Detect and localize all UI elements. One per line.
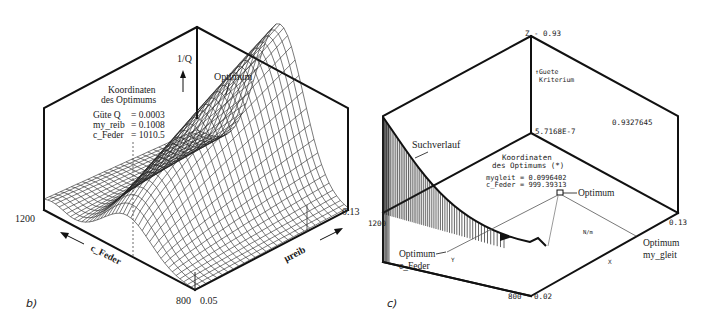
z-axis-label: 1/Q bbox=[177, 53, 193, 64]
unit-label: N/m bbox=[583, 229, 594, 235]
search-path-label-pointer bbox=[415, 152, 428, 158]
info-row-myreib-value: = 0.1008 bbox=[131, 120, 165, 130]
x-axis-letter: X bbox=[608, 258, 612, 265]
panel-b-surface-plot: 1/Q Optimum Koordinaten des Optimums Güt… bbox=[0, 0, 365, 333]
optimum-label: Optimum bbox=[214, 71, 253, 82]
info-title-line2: des Optimums bbox=[101, 95, 156, 105]
x-axis-arrow-icon bbox=[60, 232, 84, 244]
y-tick-013: 0.13 bbox=[669, 218, 687, 227]
z-axis-label-line1: ↑Guete bbox=[535, 68, 559, 76]
x-axis-label: c_Feder bbox=[89, 243, 123, 267]
panel-label-c: c) bbox=[387, 297, 397, 310]
info-row-guete-name: Güte Q bbox=[93, 110, 121, 120]
y-axis-label: μreib bbox=[282, 243, 308, 263]
search-path-label: Suchverlauf bbox=[412, 139, 461, 150]
optimum-c-feder-label-line1: Optimum bbox=[399, 249, 436, 259]
z-axis-label-line2: Kriterium bbox=[539, 76, 574, 84]
panel-label-b: b) bbox=[26, 297, 37, 310]
y-tick-013: 0.13 bbox=[342, 206, 360, 217]
info-row-cfeder-name: c_Feder bbox=[486, 181, 516, 189]
info-title-line1: Koordinaten bbox=[108, 85, 156, 95]
y-tick-002: 0.02 bbox=[534, 292, 552, 301]
x-tick-1200: 1200 bbox=[368, 219, 387, 228]
y-tick-005: 0.05 bbox=[200, 295, 218, 306]
optimum-marker-label: Optimum bbox=[578, 188, 615, 198]
optimum-my-gleit-label-line1: Optimum bbox=[643, 238, 680, 248]
z-top-label: Z - 0.93 bbox=[525, 29, 561, 38]
info-row-myreib-name: my_reib bbox=[93, 120, 125, 130]
optimum-marker bbox=[557, 190, 563, 195]
search-path-canvas: Z - 0.93 ↑Guete Kriterium 5.7168E-7 0.93… bbox=[365, 0, 707, 333]
my-gleit-projection-line bbox=[562, 195, 636, 236]
info-title-line2: des Optimums (*) bbox=[492, 161, 564, 170]
z-right-value: 0.9327645 bbox=[612, 118, 653, 127]
x-tick-800: 800 bbox=[176, 295, 191, 306]
z-axis-arrow-icon bbox=[180, 70, 186, 92]
info-row-cfeder-value: = 999.39313 bbox=[520, 181, 566, 189]
optimum-c-feder-pointer bbox=[436, 252, 446, 254]
optimum-info-box: Koordinaten des Optimums Güte Q = 0.0003… bbox=[93, 85, 165, 140]
info-row-cfeder-name: c_Feder bbox=[93, 130, 124, 140]
x-tick-800: 800 bbox=[508, 292, 522, 301]
info-row-cfeder-value: = 1010.5 bbox=[131, 130, 165, 140]
c-feder-projection-line bbox=[447, 195, 558, 252]
z-min-value: 5.7168E-7 bbox=[535, 127, 576, 136]
optimum-drop-line bbox=[548, 196, 558, 246]
optimum-my-gleit-label-line2: my_gleit bbox=[643, 250, 677, 260]
optimum-info-box: Koordinaten des Optimums (*) mygleit = 0… bbox=[486, 153, 566, 189]
x-tick-1200: 1200 bbox=[15, 213, 35, 224]
optimum-c-feder-label-line2: c_Feder bbox=[399, 261, 430, 271]
info-row-guete-value: = 0.0003 bbox=[131, 110, 165, 120]
y-axis-letter: Y bbox=[451, 256, 455, 263]
surface-plot-canvas: 1/Q Optimum Koordinaten des Optimums Güt… bbox=[0, 0, 365, 333]
panel-c-search-path-plot: Z - 0.93 ↑Guete Kriterium 5.7168E-7 0.93… bbox=[365, 0, 707, 333]
y-axis-arrow-icon bbox=[320, 228, 343, 240]
